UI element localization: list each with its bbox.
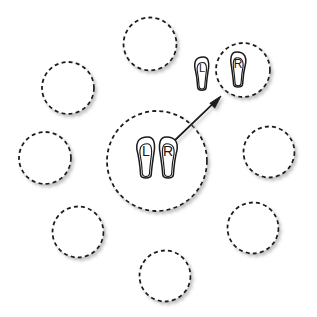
dashed-circle-center-source[interactable] bbox=[107, 111, 207, 211]
dashed-circle-mid-right[interactable] bbox=[244, 127, 295, 178]
dashed-circle-bottom-right[interactable] bbox=[228, 203, 279, 254]
arrow-head bbox=[210, 96, 221, 108]
footprint-label-r: R bbox=[163, 143, 173, 159]
footprint-left-target[interactable]: L bbox=[195, 57, 209, 90]
dashed-circle-bottom-center[interactable] bbox=[140, 251, 191, 302]
footprint-circles-svg: LRLR bbox=[0, 0, 317, 317]
dashed-circle-bottom-left[interactable] bbox=[53, 207, 104, 258]
footprint-label-l: L bbox=[142, 143, 150, 159]
dashed-circle-top-left[interactable] bbox=[42, 62, 94, 114]
circle-layer bbox=[19, 18, 295, 302]
dashed-circle-mid-left[interactable] bbox=[19, 132, 71, 184]
footprint-label-r: R bbox=[234, 57, 243, 71]
dashed-circle-top-center[interactable] bbox=[124, 18, 177, 71]
footprint-label-l: L bbox=[199, 62, 205, 74]
diagram-canvas: LRLR bbox=[0, 0, 317, 317]
